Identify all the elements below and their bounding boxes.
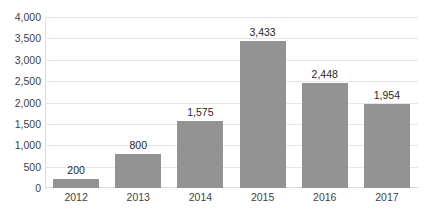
bar-value-label: 2,448 — [312, 69, 338, 80]
bar — [302, 83, 348, 188]
y-axis-tick-label: 0 — [1, 183, 41, 194]
y-axis-tick-label: 3,500 — [1, 33, 41, 44]
gridline — [45, 187, 418, 188]
y-axis-tick-label: 4,000 — [1, 12, 41, 23]
x-axis-tick-label: 2012 — [64, 192, 87, 203]
y-axis-tick-label: 2,500 — [1, 76, 41, 87]
y-axis-tick-labels: 05001,0001,5002,0002,5003,0003,5004,000 — [0, 0, 41, 221]
bar-value-label: 1,954 — [374, 90, 400, 101]
gridline — [45, 60, 418, 61]
gridline — [45, 124, 418, 125]
gridline — [45, 145, 418, 146]
y-axis-tick-label: 1,000 — [1, 140, 41, 151]
bar-chart: 05001,0001,5002,0002,5003,0003,5004,000 … — [0, 0, 432, 221]
bar-value-label: 3,433 — [249, 27, 275, 38]
y-axis-tick-label: 3,000 — [1, 55, 41, 66]
y-axis-tick-label: 1,500 — [1, 119, 41, 130]
x-axis-tick-label: 2013 — [127, 192, 150, 203]
bar — [364, 104, 410, 188]
bar-value-label: 200 — [67, 165, 85, 176]
gridline — [45, 38, 418, 39]
gridline — [45, 167, 418, 168]
gridline — [45, 103, 418, 104]
y-axis-tick-label: 500 — [1, 161, 41, 172]
x-axis-tick-label: 2014 — [189, 192, 212, 203]
plot-area — [45, 17, 418, 188]
y-axis-tick-label: 2,000 — [1, 97, 41, 108]
bar-value-label: 800 — [129, 140, 147, 151]
x-axis-tick-label: 2016 — [313, 192, 336, 203]
gridline — [45, 17, 418, 18]
gridline — [45, 81, 418, 82]
bar — [53, 179, 99, 188]
bar — [115, 154, 161, 188]
bar-value-label: 1,575 — [187, 107, 213, 118]
bar — [177, 121, 223, 188]
x-axis-tick-label: 2015 — [251, 192, 274, 203]
x-axis-tick-labels: 201220132014201520162017 — [45, 192, 418, 212]
bar — [240, 41, 286, 188]
x-axis-tick-label: 2017 — [375, 192, 398, 203]
